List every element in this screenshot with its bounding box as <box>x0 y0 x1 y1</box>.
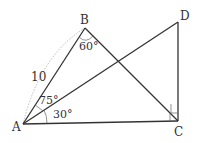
angle-dac-arc <box>44 110 47 123</box>
segment-ac <box>23 121 178 124</box>
angle-bac-label: 75° <box>39 94 59 107</box>
point-label-a: A <box>11 120 21 134</box>
angle-b-label: 60° <box>79 40 99 53</box>
right-angle-mark-dc <box>171 104 178 113</box>
angle-dac-label: 30° <box>53 108 73 121</box>
point-label-c: C <box>174 125 183 139</box>
geometry-diagram: B D C A 10 60° 75° 30° <box>0 0 199 143</box>
point-label-d: D <box>180 9 190 23</box>
side-ab-length: 10 <box>31 70 46 84</box>
point-label-b: B <box>80 13 89 27</box>
